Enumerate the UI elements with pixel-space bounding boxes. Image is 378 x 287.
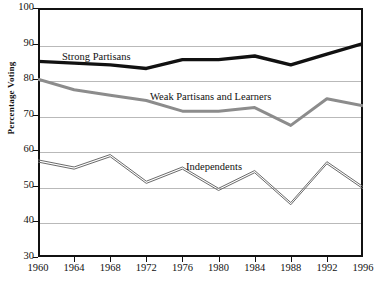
y-axis-tick-mark <box>33 257 38 258</box>
x-axis-tick-label: 1992 <box>307 262 347 273</box>
y-axis-tick-label: 50 <box>0 180 34 190</box>
series-line-weak-partisans-and-learners <box>38 79 363 125</box>
x-axis-tick-label: 1980 <box>199 262 239 273</box>
series-label-independents: Independents <box>186 161 242 172</box>
series-label-strong-partisans: Strong Partisans <box>62 51 131 62</box>
x-axis-tick-mark <box>182 257 183 262</box>
x-axis-tick-mark <box>219 257 220 262</box>
series-overlay <box>38 8 363 257</box>
x-axis-tick-label: 1976 <box>162 262 202 273</box>
y-axis-tick-label: 70 <box>0 109 34 119</box>
x-axis-tick-label: 1964 <box>54 262 94 273</box>
y-axis-tick-label: 30 <box>0 251 34 261</box>
y-axis-tick-group: 10090807060504030 <box>0 0 34 287</box>
x-axis-tick-label: 1968 <box>90 262 130 273</box>
series-label-weak-partisans: Weak Partisans and Learners <box>150 91 271 102</box>
x-axis-tick-mark <box>255 257 256 262</box>
x-axis-tick-mark <box>110 257 111 262</box>
x-axis-tick-mark <box>146 257 147 262</box>
x-axis-tick-mark <box>327 257 328 262</box>
chart-container: Percentage Voting 10090807060504030 1960… <box>0 0 378 287</box>
x-axis-tick-mark <box>74 257 75 262</box>
x-axis-tick-label: 1984 <box>235 262 275 273</box>
y-axis-tick-label: 100 <box>0 2 34 12</box>
y-axis-tick-label: 60 <box>0 144 34 154</box>
y-axis-tick-label: 90 <box>0 38 34 48</box>
x-axis-tick-label: 1972 <box>126 262 166 273</box>
y-axis-tick-label: 80 <box>0 73 34 83</box>
x-axis-tick-label: 1996 <box>343 262 378 273</box>
y-axis-tick-label: 40 <box>0 215 34 225</box>
x-axis-tick-label: 1960 <box>18 262 58 273</box>
x-axis-tick-label: 1988 <box>271 262 311 273</box>
x-axis-tick-mark <box>291 257 292 262</box>
